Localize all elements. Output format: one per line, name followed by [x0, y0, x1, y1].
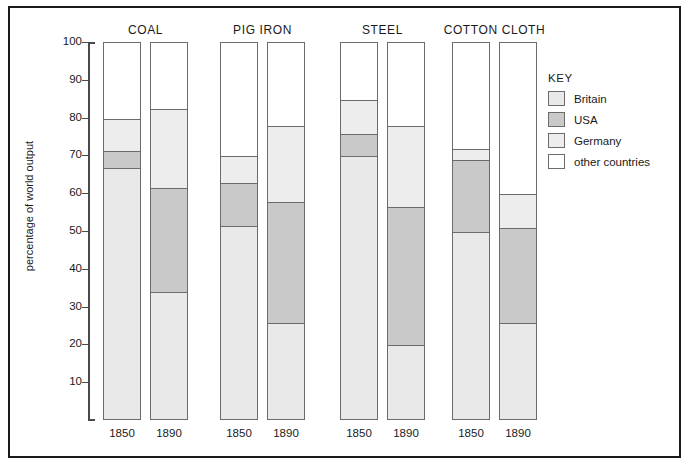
legend-label: USA: [574, 114, 598, 126]
chart-page: percentage of world output 1009080706050…: [0, 0, 691, 465]
legend-swatch: [548, 112, 565, 127]
bar-segment-usa: [500, 228, 536, 323]
y-tick-mark: [82, 344, 90, 345]
y-tick-label-wrap: 60: [40, 187, 82, 198]
bar-segment-britain: [388, 345, 424, 420]
legend-item: Britain: [548, 91, 678, 106]
y-tick-label: 20: [48, 338, 82, 349]
bar-segment-germany: [151, 109, 187, 188]
y-tick-mark: [82, 382, 90, 383]
y-tick-mark: [82, 231, 90, 232]
legend-item: Germany: [548, 133, 678, 148]
stacked-bar: [387, 42, 425, 420]
bar-segment-usa: [341, 134, 377, 157]
y-tick-label-wrap: 40: [40, 263, 82, 274]
legend-swatch: [548, 154, 565, 169]
legend: KEY BritainUSAGermanyother countries: [548, 72, 678, 175]
stacked-bar: [267, 42, 305, 420]
y-tick-label: 90: [48, 74, 82, 85]
y-tick-label: 100: [48, 36, 82, 47]
y-tick-label: 70: [48, 149, 82, 160]
y-tick-label: 40: [48, 263, 82, 274]
bar-segment-britain: [221, 226, 257, 420]
y-tick-label-wrap: 70: [40, 149, 82, 160]
stacked-bar: [340, 42, 378, 420]
y-tick-label-wrap: 30: [40, 301, 82, 312]
legend-swatch: [548, 133, 565, 148]
stacked-bar: [103, 42, 141, 420]
bar-segment-usa: [453, 160, 489, 232]
x-axis-label: 1890: [377, 427, 435, 439]
bar-segment-britain: [500, 323, 536, 420]
group-title: COTTON CLOTH: [422, 23, 567, 37]
bar-segment-usa: [388, 207, 424, 345]
y-tick-mark: [82, 269, 90, 270]
y-tick-label-wrap: 80: [40, 112, 82, 123]
bar-segment-germany: [221, 156, 257, 182]
bar-segment-britain: [268, 323, 304, 420]
bar-segment-germany: [341, 100, 377, 134]
y-tick-mark: [82, 118, 90, 119]
y-tick-mark: [82, 193, 90, 194]
y-tick-label-wrap: 100: [40, 36, 82, 47]
stacked-bar: [452, 42, 490, 420]
y-tick-label-wrap: 20: [40, 338, 82, 349]
x-axis-label: 1890: [140, 427, 198, 439]
plot-area: percentage of world output 1009080706050…: [0, 0, 691, 465]
legend-title: KEY: [548, 72, 678, 84]
y-tick-label: 30: [48, 301, 82, 312]
y-tick-mark: [82, 80, 90, 81]
y-tick-label: 50: [48, 225, 82, 236]
y-tick-label-wrap: 10: [40, 376, 82, 387]
stacked-bar: [499, 42, 537, 420]
legend-label: Britain: [574, 93, 607, 105]
legend-label: Germany: [574, 135, 621, 147]
legend-swatch: [548, 91, 565, 106]
y-axis-title: percentage of world output: [23, 111, 35, 301]
bar-segment-usa: [104, 151, 140, 168]
bar-segment-germany: [268, 126, 304, 202]
y-tick-mark: [82, 307, 90, 308]
bar-segment-germany: [500, 194, 536, 228]
y-axis-bottom-cap: [88, 419, 95, 421]
bar-segment-usa: [268, 202, 304, 323]
stacked-bar: [150, 42, 188, 420]
x-axis-label: 1890: [489, 427, 547, 439]
bar-segment-usa: [151, 188, 187, 293]
y-tick-label: 10: [48, 376, 82, 387]
legend-item: other countries: [548, 154, 678, 169]
bar-segment-britain: [453, 232, 489, 420]
y-tick-label-wrap: 50: [40, 225, 82, 236]
y-tick-mark: [82, 155, 90, 156]
legend-label: other countries: [574, 156, 650, 168]
bar-segment-germany: [453, 149, 489, 160]
legend-item: USA: [548, 112, 678, 127]
legend-items: BritainUSAGermanyother countries: [548, 91, 678, 169]
bar-segment-britain: [104, 168, 140, 420]
y-tick-label: 80: [48, 112, 82, 123]
bar-segment-britain: [341, 156, 377, 420]
y-tick-label: 60: [48, 187, 82, 198]
bar-segment-britain: [151, 292, 187, 420]
bar-segment-usa: [221, 183, 257, 226]
x-axis-label: 1890: [257, 427, 315, 439]
y-tick-label-wrap: 90: [40, 74, 82, 85]
bar-segment-germany: [104, 119, 140, 151]
stacked-bar: [220, 42, 258, 420]
y-tick-mark: [82, 42, 90, 43]
bar-segment-germany: [388, 126, 424, 207]
